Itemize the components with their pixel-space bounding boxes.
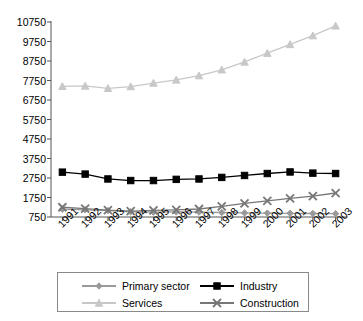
y-tick-label: 1750: [2, 193, 46, 203]
y-tick-label: 6750: [2, 95, 46, 105]
line-chart: 7501750275037504750575067507750875097501…: [0, 0, 363, 321]
legend-marker-diamond-icon: [80, 279, 118, 293]
x-axis-labels: 1991199219931994199519961997199819992000…: [0, 218, 363, 266]
legend-item-primary-sector[interactable]: Primary sector: [80, 277, 190, 295]
chart-legend: Primary sectorIndustryServicesConstructi…: [57, 272, 309, 312]
legend-marker-square-icon: [198, 279, 236, 293]
y-tick-label: 3750: [2, 154, 46, 164]
series-industry: [59, 169, 339, 184]
legend-marker-cross-icon: [198, 296, 236, 310]
y-tick-label: 8750: [2, 56, 46, 66]
legend-marker-triangle-icon: [80, 296, 118, 310]
legend-item-services[interactable]: Services: [80, 294, 162, 312]
y-tick-label: 10750: [2, 17, 46, 27]
y-tick-label: 7750: [2, 76, 46, 86]
y-tick-label: 2750: [2, 173, 46, 183]
series-services: [59, 22, 340, 91]
legend-label: Primary sector: [118, 280, 190, 292]
y-tick-label: 5750: [2, 115, 46, 125]
plot-area: 7501750275037504750575067507750875097501…: [0, 0, 363, 262]
legend-item-construction[interactable]: Construction: [198, 294, 299, 312]
y-tick-label: 4750: [2, 134, 46, 144]
legend-label: Services: [118, 297, 162, 309]
legend-label: Industry: [236, 280, 277, 292]
y-tick-label: 9750: [2, 37, 46, 47]
legend-label: Construction: [236, 297, 299, 309]
legend-item-industry[interactable]: Industry: [198, 277, 277, 295]
